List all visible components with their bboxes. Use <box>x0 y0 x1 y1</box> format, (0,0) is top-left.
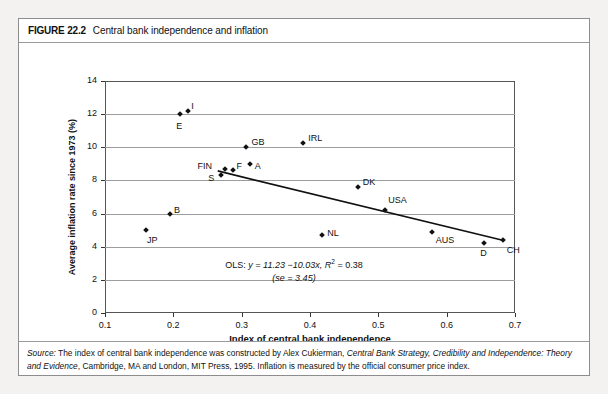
y-tick-label: 14 <box>75 75 97 85</box>
data-point-label: USA <box>388 195 407 205</box>
y-tick-label: 8 <box>75 174 97 184</box>
data-point-label: B <box>174 205 180 215</box>
source-text-part1: The index of central bank independence w… <box>56 348 347 358</box>
data-point-label: F <box>236 161 242 171</box>
ols-se-line: (se = 3.45) <box>194 272 394 285</box>
x-tick-mark <box>242 313 243 317</box>
x-tick-mark <box>378 313 379 317</box>
data-point-label: D <box>480 248 487 258</box>
source-text: Source: The index of central bank indepe… <box>27 347 581 372</box>
figure-title: Central bank independence and inflation <box>93 25 268 36</box>
x-tick-mark <box>173 313 174 317</box>
data-point-label: DK <box>363 177 376 187</box>
figure-header: FIGURE 22.2 Central bank independence an… <box>19 19 589 43</box>
x-tick-label: 0.3 <box>228 320 256 330</box>
ols-r2-pre: , R <box>320 260 332 270</box>
ols-prefix: OLS: <box>225 260 248 270</box>
page-root: FIGURE 22.2 Central bank independence an… <box>0 0 608 394</box>
data-point-label: NL <box>327 228 339 238</box>
x-tick-label: 0.6 <box>433 320 461 330</box>
ols-annotation: OLS: y = 11.23 −10.03x, R2 = 0.38 (se = … <box>194 255 394 285</box>
x-tick-label: 0.7 <box>501 320 529 330</box>
x-tick-label: 0.4 <box>296 320 324 330</box>
x-tick-label: 0.2 <box>159 320 187 330</box>
ols-r2-value: = 0.38 <box>335 260 363 270</box>
data-point-label: JP <box>147 235 158 245</box>
source-label: Source: <box>27 348 56 358</box>
figure-container: FIGURE 22.2 Central bank independence an… <box>18 18 590 376</box>
data-point-label: S <box>208 173 214 183</box>
source-text-part2: , Cambridge, MA and London, MIT Press, 1… <box>78 361 470 371</box>
data-point-label: GB <box>251 137 264 147</box>
data-point-label: I <box>191 101 194 111</box>
figure-number: FIGURE 22.2 <box>28 25 86 36</box>
data-point-label: AUS <box>436 235 455 245</box>
data-point-label: FIN <box>198 161 213 171</box>
x-tick-mark <box>447 313 448 317</box>
ols-equation-line: OLS: y = 11.23 −10.03x, R2 = 0.38 <box>194 255 394 272</box>
y-tick-label: 0 <box>75 307 97 317</box>
y-tick-label: 12 <box>75 108 97 118</box>
x-tick-mark <box>515 313 516 317</box>
data-point-label: A <box>255 161 261 171</box>
y-tick-label: 4 <box>75 241 97 251</box>
x-tick-mark <box>105 313 106 317</box>
y-tick-label: 6 <box>75 208 97 218</box>
x-tick-mark <box>310 313 311 317</box>
y-tick-label: 10 <box>75 141 97 151</box>
data-point-label: CH <box>507 245 520 255</box>
data-point-label: IRL <box>308 133 322 143</box>
y-tick-label: 2 <box>75 274 97 284</box>
ols-equation: y = 11.23 −10.03x <box>248 260 319 270</box>
data-point-label: E <box>176 121 182 131</box>
x-tick-label: 0.5 <box>364 320 392 330</box>
x-tick-label: 0.1 <box>91 320 119 330</box>
source-note: Source: The index of central bank indepe… <box>18 341 590 376</box>
